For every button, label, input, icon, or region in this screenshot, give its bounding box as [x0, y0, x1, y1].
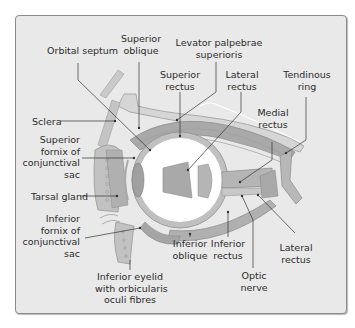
label-inferior-eyelid: Inferior eyelid with orbicularis oculi f…: [95, 271, 165, 306]
label-levator-palpebrae-superioris: Levator palpebrae superioris: [174, 37, 264, 60]
label-optic-nerve: Optic nerve: [236, 270, 272, 293]
tendinous-ring-shape: [280, 150, 302, 204]
lens: [132, 163, 144, 197]
label-superior-fornix: Superior fornix of conjunctival sac: [20, 134, 80, 180]
label-tendinous-ring: Tendinous ring: [282, 69, 332, 92]
septum-extension: [100, 70, 124, 98]
label-inferior-rectus: Inferior rectus: [208, 238, 248, 261]
medial-rectus-insertion: [163, 162, 192, 198]
orbital-septum-shape: [98, 100, 120, 148]
lower-eyelid: [100, 214, 134, 264]
label-inferior-fornix: Inferior fornix of conjunctival sac: [20, 213, 80, 259]
label-orbital-septum: Orbital septum: [47, 45, 118, 57]
label-superior-oblique: Superior oblique: [120, 33, 162, 56]
label-medial-rectus: Medial rectus: [255, 107, 291, 130]
label-tarsal-gland: Tarsal gland: [31, 191, 88, 203]
label-lateral-rectus-top: Lateral rectus: [222, 69, 262, 92]
label-sclera: Sclera: [32, 116, 61, 128]
label-superior-rectus: Superior rectus: [158, 69, 202, 92]
label-inferior-oblique: Inferior oblique: [168, 238, 212, 261]
label-lateral-rectus-bottom: Lateral rectus: [276, 242, 316, 265]
upper-eyelid: [94, 145, 128, 212]
optic-nerve-complex: [222, 150, 302, 204]
